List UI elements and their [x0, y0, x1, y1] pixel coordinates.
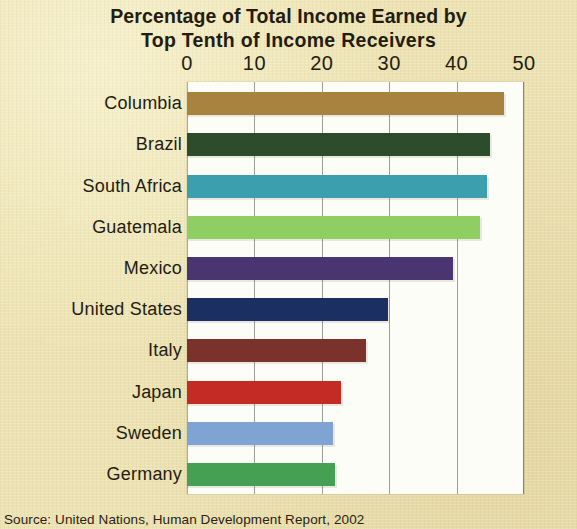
category-label-sweden: Sweden [0, 423, 182, 444]
x-tick-label-30: 30 [378, 52, 401, 75]
bar-columbia [187, 92, 504, 115]
x-tick-label-10: 10 [243, 52, 266, 75]
x-axis-tick-labels: 01020304050 [0, 52, 577, 80]
category-label-japan: Japan [0, 382, 182, 403]
x-tick-label-20: 20 [310, 52, 333, 75]
category-label-columbia: Columbia [0, 93, 182, 114]
bar-mexico [187, 257, 453, 280]
bar-brazil [187, 133, 490, 156]
x-tick-label-40: 40 [445, 52, 468, 75]
x-tick-label-50: 50 [512, 52, 535, 75]
chart-title-line-2: Top Tenth of Income Receivers [0, 28, 577, 52]
bar-united-states [187, 298, 388, 321]
category-label-united-states: United States [0, 299, 182, 320]
plot-inner [187, 82, 524, 494]
category-label-south-africa: South Africa [0, 176, 182, 197]
bar-guatemala [187, 216, 480, 239]
plot-area [187, 82, 524, 494]
y-axis-category-labels: ColumbiaBrazilSouth AfricaGuatemalaMexic… [0, 82, 182, 494]
x-tick-label-0: 0 [181, 52, 193, 75]
bar-germany [187, 463, 335, 486]
chart-title: Percentage of Total Income Earned by Top… [0, 4, 577, 52]
bar-sweden [187, 422, 333, 445]
category-label-brazil: Brazil [0, 134, 182, 155]
category-label-italy: Italy [0, 340, 182, 361]
category-label-guatemala: Guatemala [0, 217, 182, 238]
bar-chart-figure: Percentage of Total Income Earned by Top… [0, 0, 577, 529]
category-label-germany: Germany [0, 464, 182, 485]
bar-italy [187, 339, 366, 362]
category-label-mexico: Mexico [0, 258, 182, 279]
bar-south-africa [187, 175, 487, 198]
source-note: Source: United Nations, Human Developmen… [4, 512, 574, 529]
bar-japan [187, 381, 341, 404]
gridline-50 [523, 82, 524, 494]
chart-title-line-1: Percentage of Total Income Earned by [0, 4, 577, 28]
